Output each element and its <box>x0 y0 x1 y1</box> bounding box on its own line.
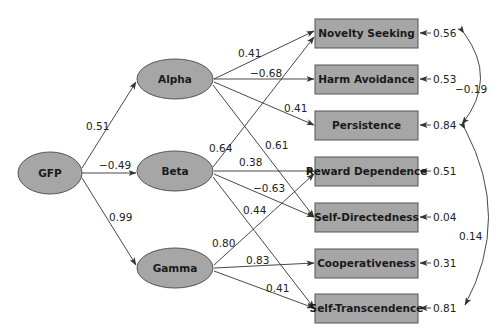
svg-text:Novelty Seeking: Novelty Seeking <box>318 27 414 39</box>
svg-text:Self-Transcendence: Self-Transcendence <box>310 302 424 314</box>
coef-alpha-p: 0.41 <box>284 102 307 114</box>
coef-gfp-alpha: 0.51 <box>86 120 109 132</box>
residual-p: 0.84 <box>433 119 457 131</box>
svg-text:Self-Directedness: Self-Directedness <box>314 211 419 223</box>
box-novelty-seeking: Novelty Seeking <box>315 19 418 48</box>
coef-alpha-sd: 0.61 <box>265 139 288 151</box>
svg-text:Beta: Beta <box>161 165 188 177</box>
box-persistence: Persistence <box>315 111 418 140</box>
correlation-arc-ns-p <box>462 33 481 124</box>
node-gamma: Gamma <box>137 248 213 288</box>
coef-gfp-beta: −0.49 <box>99 159 131 171</box>
correlation-arc-p-st <box>465 129 489 305</box>
residual-ha: 0.53 <box>433 73 456 85</box>
residual-c: 0.31 <box>433 257 456 269</box>
coef-beta-rd: 0.38 <box>239 156 262 168</box>
box-reward-dependence: Reward Dependence <box>306 157 428 186</box>
correlation-ns-p: −0.19 <box>455 83 487 95</box>
coef-beta-sd: −0.63 <box>253 182 285 194</box>
coef-beta-st: 0.44 <box>243 204 267 216</box>
svg-text:Cooperativeness: Cooperativeness <box>317 257 416 269</box>
svg-text:Persistence: Persistence <box>332 119 401 131</box>
svg-text:Alpha: Alpha <box>158 73 192 85</box>
coef-gfp-gamma: 0.99 <box>109 211 132 223</box>
coef-gamma-st: 0.41 <box>266 282 289 294</box>
residual-st: 0.81 <box>433 302 456 314</box>
svg-text:Reward Dependence: Reward Dependence <box>306 165 428 177</box>
box-harm-avoidance: Harm Avoidance <box>315 65 418 94</box>
svg-text:Harm Avoidance: Harm Avoidance <box>318 73 414 85</box>
correlation-p-st: 0.14 <box>459 230 483 242</box>
node-beta: Beta <box>137 151 213 191</box>
node-gfp: GFP <box>18 152 82 194</box>
residual-rd: 0.51 <box>433 165 456 177</box>
svg-text:Gamma: Gamma <box>153 262 198 274</box>
path-diagram: GFP Alpha Beta Gamma Novelty Seeking Har… <box>0 0 499 335</box>
coef-gamma-rd: 0.80 <box>212 237 235 249</box>
edge-gamma-st <box>214 271 314 308</box>
coef-beta-ns: 0.64 <box>209 142 233 154</box>
coef-alpha-ha: −0.68 <box>250 67 282 79</box>
svg-text:GFP: GFP <box>38 167 62 179</box>
residual-sd: 0.04 <box>433 211 457 223</box>
node-alpha: Alpha <box>137 59 213 99</box>
box-self-transcendence: Self-Transcendence <box>310 294 424 323</box>
coef-gamma-c: 0.83 <box>246 254 269 266</box>
box-self-directedness: Self-Directedness <box>314 203 419 232</box>
residual-ns: 0.56 <box>433 27 457 39</box>
coef-alpha-ns: 0.41 <box>238 47 261 59</box>
box-cooperativeness: Cooperativeness <box>315 249 418 278</box>
